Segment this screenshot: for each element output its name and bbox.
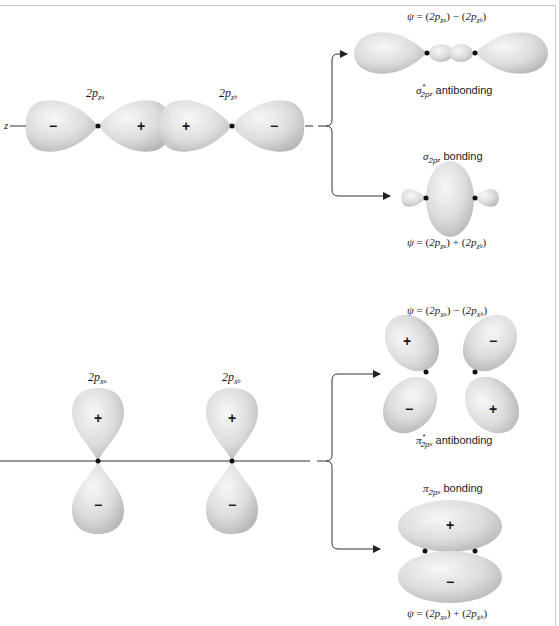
px-a-nucleus xyxy=(96,459,101,464)
pi-star-lower-left-sign: − xyxy=(402,402,416,416)
pz-a-right-sign: + xyxy=(134,119,148,133)
sigma-bonding-central-lobe xyxy=(426,161,474,237)
px-b-nucleus xyxy=(230,459,235,464)
pi-star-lower-right-sign: + xyxy=(486,402,500,416)
pz-b-nucleus xyxy=(230,124,235,129)
sigma-bonding-nucleus-a xyxy=(424,196,429,201)
sigma-bonding-equation: ψ = (2pza) + (2pzb) xyxy=(407,236,486,253)
orbital-label-2pz-a: 2pza xyxy=(86,87,104,104)
pi-star-upper-right-sign: − xyxy=(486,334,500,348)
pz-a-left-lobe xyxy=(26,100,98,151)
pi-star-nucleus-b xyxy=(473,370,478,375)
px-a-lower-sign: − xyxy=(91,498,105,512)
orbital-label-2px-a: 2pxa xyxy=(88,371,107,388)
sigma-bonding-nucleus-b xyxy=(473,196,478,201)
pz-branch-brace xyxy=(326,54,390,196)
pi-bonding-lower-sign: − xyxy=(443,575,457,589)
pi-star-upper-left-sign: + xyxy=(400,334,414,348)
sigma-star-nucleus-a xyxy=(425,51,430,56)
sigma-star-equation: ψ = (2pza) − (2pzb) xyxy=(407,10,486,27)
pz-a-nucleus xyxy=(96,124,101,129)
pz-b-left-sign: + xyxy=(179,119,193,133)
sigma-star-nucleus-b xyxy=(473,51,478,56)
pi-star-equation: ψ = (2pxa) − (2pxb) xyxy=(407,304,487,321)
sigma-bonding-right-lobe xyxy=(474,189,499,206)
pz-a-left-sign: − xyxy=(46,119,60,133)
pz-b-left-lobe xyxy=(160,100,232,151)
sigma-star-left-lobe xyxy=(354,32,427,73)
sigma-star-inner-lobe-right xyxy=(449,44,473,62)
sigma-star-label: σ*2pz antibonding xyxy=(416,80,492,101)
orbital-label-2px-b: 2pxb xyxy=(222,371,241,388)
pz-b-right-sign: − xyxy=(267,119,281,133)
sigma-star-right-lobe xyxy=(475,32,548,73)
px-b-upper-sign: + xyxy=(225,411,239,425)
z-axis-label: z xyxy=(4,119,8,131)
pi-star-nucleus-a xyxy=(424,370,429,375)
px-b-lower-sign: − xyxy=(225,498,239,512)
orbital-label-2pz-b: 2pzb xyxy=(219,87,237,104)
pi-bonding-label: π2px bonding xyxy=(423,482,483,499)
sigma-bonding-left-lobe xyxy=(401,189,426,206)
pi-bonding-upper-sign: + xyxy=(443,518,457,532)
sigma-bonding-label: σ2pz bonding xyxy=(423,150,483,167)
px-a-upper-sign: + xyxy=(91,411,105,425)
pi-star-label: π*2px antibonding xyxy=(416,430,493,451)
pi-bonding-equation: ψ = (2pxa) + (2pxb) xyxy=(407,607,487,624)
pi-bonding-nucleus-b xyxy=(473,549,478,554)
px-branch-brace xyxy=(326,374,380,549)
pi-bonding-nucleus-a xyxy=(423,549,428,554)
